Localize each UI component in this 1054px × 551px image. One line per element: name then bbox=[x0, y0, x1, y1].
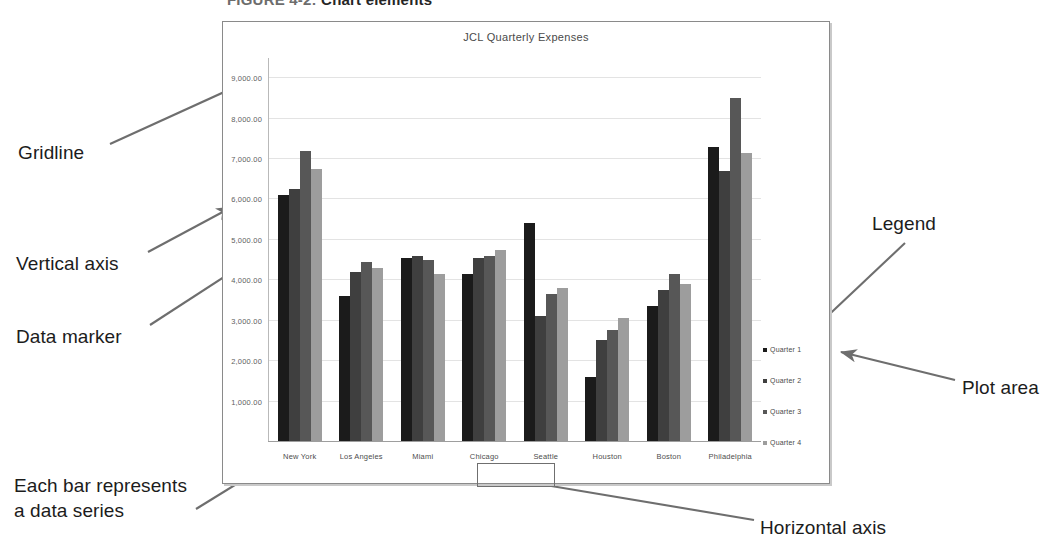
y-axis-tick-label: 1,000.00 bbox=[231, 397, 262, 406]
y-axis-tick-label: 5,000.00 bbox=[231, 235, 262, 244]
annotation-data-series: Each bar represents a data series bbox=[14, 473, 187, 523]
bar-group bbox=[392, 58, 454, 441]
y-axis-tick-label: 4,000.00 bbox=[231, 276, 262, 285]
bar-q3[interactable] bbox=[669, 274, 680, 441]
legend-item[interactable]: Quarter 1 bbox=[763, 334, 823, 365]
arrow-vertical-axis bbox=[148, 207, 232, 252]
horizontal-axis bbox=[268, 441, 761, 442]
bar-q4[interactable] bbox=[618, 318, 629, 441]
y-axis-tick-label: 2,000.00 bbox=[231, 357, 262, 366]
bar-q2[interactable] bbox=[350, 272, 361, 441]
annotation-horizontal-axis: Horizontal axis bbox=[760, 515, 886, 540]
y-axis-tick-label: 9,000.00 bbox=[231, 74, 262, 83]
bar-group bbox=[700, 58, 762, 441]
legend-swatch-icon bbox=[763, 348, 767, 352]
category-label[interactable]: Houston bbox=[577, 452, 639, 461]
bar-q4[interactable] bbox=[557, 288, 568, 441]
category-label[interactable]: Chicago bbox=[454, 452, 516, 461]
bar-q1[interactable] bbox=[524, 223, 535, 441]
chart-title: JCL Quarterly Expenses bbox=[223, 31, 829, 43]
bar-groups bbox=[269, 58, 761, 441]
bar-q3[interactable] bbox=[300, 151, 311, 441]
category-label[interactable]: Miami bbox=[392, 452, 454, 461]
category-axis-labels: New YorkLos AngelesMiamiChicagoSeattleHo… bbox=[269, 452, 761, 461]
legend-label: Quarter 3 bbox=[770, 408, 801, 415]
chart-frame[interactable]: JCL Quarterly Expenses 1,000.002,000.003… bbox=[222, 21, 830, 484]
bar-q1[interactable] bbox=[278, 195, 289, 441]
legend-swatch-icon bbox=[763, 379, 767, 383]
figure-title: Chart elements bbox=[321, 0, 432, 8]
category-selection-box[interactable] bbox=[477, 463, 555, 487]
legend[interactable]: Quarter 1Quarter 2Quarter 3Quarter 4 bbox=[763, 334, 823, 458]
category-label[interactable]: Philadelphia bbox=[700, 452, 762, 461]
bar-q1[interactable] bbox=[339, 296, 350, 441]
bar-q2[interactable] bbox=[473, 258, 484, 441]
bar-q2[interactable] bbox=[535, 316, 546, 441]
bar-q2[interactable] bbox=[596, 340, 607, 441]
bar-q3[interactable] bbox=[361, 262, 372, 441]
legend-item[interactable]: Quarter 4 bbox=[763, 427, 823, 458]
legend-label: Quarter 4 bbox=[770, 439, 801, 446]
bar-q3[interactable] bbox=[607, 330, 618, 441]
legend-swatch-icon bbox=[763, 441, 767, 445]
bar-q1[interactable] bbox=[462, 274, 473, 441]
legend-swatch-icon bbox=[763, 410, 767, 414]
bar-q2[interactable] bbox=[289, 189, 300, 441]
annotation-legend: Legend bbox=[872, 211, 936, 236]
annotation-plot-area: Plot area bbox=[962, 375, 1039, 400]
bar-q3[interactable] bbox=[730, 98, 741, 441]
legend-label: Quarter 2 bbox=[770, 377, 801, 384]
annotation-vertical-axis: Vertical axis bbox=[16, 251, 119, 276]
legend-item[interactable]: Quarter 2 bbox=[763, 365, 823, 396]
legend-item[interactable]: Quarter 3 bbox=[763, 396, 823, 427]
bar-group bbox=[269, 58, 331, 441]
annotation-data-marker: Data marker bbox=[16, 324, 122, 349]
annotation-gridline: Gridline bbox=[18, 140, 84, 165]
bar-q1[interactable] bbox=[585, 377, 596, 442]
y-axis-tick-label: 7,000.00 bbox=[231, 155, 262, 164]
bar-q1[interactable] bbox=[647, 306, 658, 441]
bar-group bbox=[638, 58, 700, 441]
bar-q4[interactable] bbox=[311, 169, 322, 441]
bar-q3[interactable] bbox=[423, 260, 434, 441]
bar-q1[interactable] bbox=[401, 258, 412, 441]
bar-group bbox=[515, 58, 577, 441]
y-axis-tick-label: 8,000.00 bbox=[231, 114, 262, 123]
category-label[interactable]: Boston bbox=[638, 452, 700, 461]
bar-q2[interactable] bbox=[719, 171, 730, 441]
bar-q2[interactable] bbox=[658, 290, 669, 441]
figure-number: FIGURE 4-2: bbox=[227, 0, 317, 8]
bar-q2[interactable] bbox=[412, 256, 423, 441]
category-label[interactable]: Seattle bbox=[515, 452, 577, 461]
bar-q3[interactable] bbox=[546, 294, 557, 441]
y-axis-tick-label: 6,000.00 bbox=[231, 195, 262, 204]
bar-q1[interactable] bbox=[708, 147, 719, 441]
bar-group bbox=[577, 58, 639, 441]
legend-label: Quarter 1 bbox=[770, 346, 801, 353]
bar-q4[interactable] bbox=[741, 153, 752, 441]
bar-q4[interactable] bbox=[434, 274, 445, 441]
category-label[interactable]: Los Angeles bbox=[331, 452, 393, 461]
category-label[interactable]: New York bbox=[269, 452, 331, 461]
bar-q4[interactable] bbox=[495, 250, 506, 442]
arrow-plot-area bbox=[841, 352, 955, 380]
y-axis-tick-label: 3,000.00 bbox=[231, 316, 262, 325]
bar-q4[interactable] bbox=[372, 268, 383, 441]
figure-caption: FIGURE 4-2: Chart elements bbox=[227, 0, 432, 8]
bar-group bbox=[331, 58, 393, 441]
plot-area[interactable]: 1,000.002,000.003,000.004,000.005,000.00… bbox=[268, 58, 761, 442]
bar-q3[interactable] bbox=[484, 256, 495, 441]
bar-group bbox=[454, 58, 516, 441]
bar-q4[interactable] bbox=[680, 284, 691, 441]
